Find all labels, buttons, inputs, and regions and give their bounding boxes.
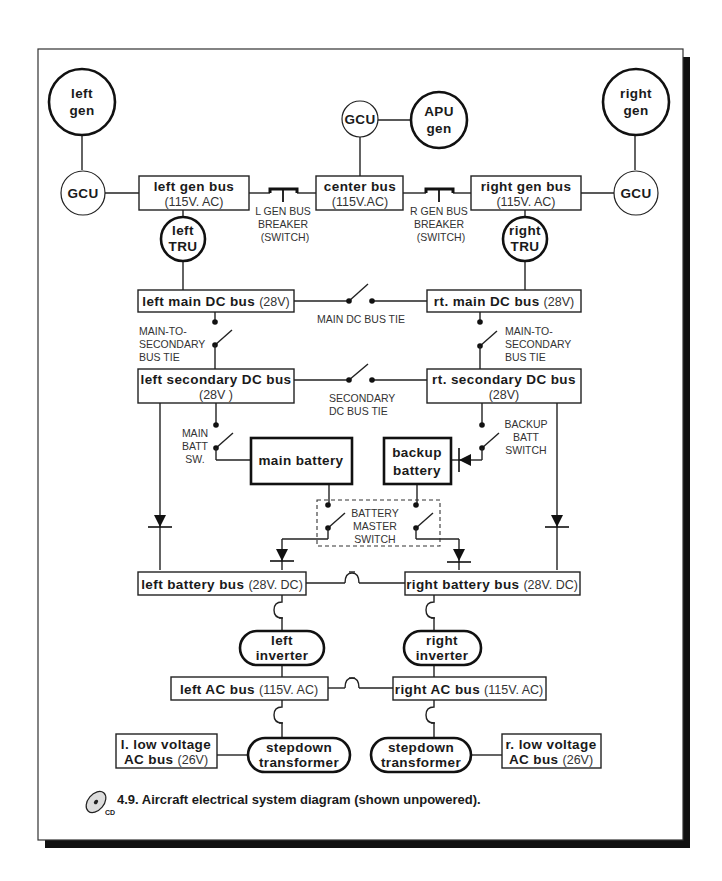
gcu-right-label: GCU: [620, 186, 651, 201]
svg-text:L GEN BUS: L GEN BUS: [255, 205, 311, 217]
electrical-system-diagram: left gen right gen APU gen GCU GCU GCU l…: [0, 0, 722, 881]
rt-secondary-dc-bus-name: rt. secondary DC bus: [432, 372, 576, 387]
svg-text:BUS TIE: BUS TIE: [505, 351, 546, 363]
right-gen-label-1: right: [620, 86, 652, 101]
right-stepdown-transformer[interactable]: stepdown transformer: [371, 738, 471, 772]
apu-gen-label-2: gen: [426, 121, 451, 136]
right-battery-bus-text: right battery bus(28V. DC): [406, 577, 578, 592]
svg-text:DC BUS TIE: DC BUS TIE: [329, 405, 388, 417]
right-gen-bus[interactable]: right gen bus (115V. AC): [471, 176, 581, 210]
gcu-left[interactable]: GCU: [61, 171, 105, 215]
left-gen-label-1: left: [71, 86, 93, 101]
r-gen-bus-breaker-label: R GEN BUS BREAKER (SWITCH): [410, 205, 468, 243]
right-inverter-label-2: inverter: [416, 648, 469, 663]
left-tru-label-1: left: [172, 223, 194, 238]
right-ac-bus[interactable]: right AC bus(115V. AC): [393, 677, 546, 700]
left-generator[interactable]: left gen: [49, 69, 115, 135]
svg-text:MAIN-TO-: MAIN-TO-: [505, 325, 553, 337]
svg-text:BUS TIE: BUS TIE: [139, 351, 180, 363]
svg-text:SECONDARY: SECONDARY: [505, 338, 571, 350]
l-low-voltage-name-2: AC bus(26V): [124, 752, 208, 767]
svg-text:SWITCH: SWITCH: [505, 444, 546, 456]
r-low-voltage-name-1: r. low voltage: [505, 737, 596, 752]
left-inverter[interactable]: left inverter: [240, 631, 324, 665]
left-tru-label-2: TRU: [169, 239, 198, 254]
svg-text:R GEN BUS: R GEN BUS: [410, 205, 468, 217]
right-gen-bus-name: right gen bus: [481, 179, 572, 194]
left-stepdown-transformer[interactable]: stepdown transformer: [248, 738, 350, 772]
right-tru[interactable]: right TRU: [503, 217, 547, 261]
main-battery[interactable]: main battery: [251, 438, 352, 484]
svg-text:BACKUP: BACKUP: [504, 418, 547, 430]
svg-text:MAIN-TO-: MAIN-TO-: [139, 325, 187, 337]
svg-text:SW.: SW.: [185, 453, 204, 465]
rt-secondary-dc-bus[interactable]: rt. secondary DC bus (28V): [427, 369, 581, 403]
svg-text:(SWITCH): (SWITCH): [261, 231, 309, 243]
main-batt-sw-label: MAIN BATT SW.: [182, 427, 209, 465]
right-inverter-label-1: right: [426, 633, 458, 648]
left-gen-bus-name: left gen bus: [154, 179, 235, 194]
apu-generator[interactable]: APU gen: [411, 92, 467, 148]
l-low-voltage-ac-bus[interactable]: l. low voltage AC bus(26V): [116, 734, 217, 768]
left-tru[interactable]: left TRU: [161, 217, 205, 261]
left-secondary-dc-bus[interactable]: left secondary DC bus (28V ): [138, 369, 294, 403]
gcu-center-label: GCU: [344, 112, 375, 127]
left-inverter-label-2: inverter: [256, 648, 309, 663]
svg-text:SWITCH: SWITCH: [354, 533, 395, 545]
left-stepdown-label-1: stepdown: [266, 740, 332, 755]
battery-master-switch-label: BATTERY MASTER SWITCH: [351, 507, 398, 545]
main-battery-label: main battery: [258, 453, 343, 468]
svg-text:SECONDARY: SECONDARY: [329, 392, 395, 404]
left-ac-bus-text: left AC bus(115V. AC): [180, 682, 318, 697]
left-secondary-dc-bus-voltage: (28V ): [199, 388, 233, 402]
left-inverter-label-1: left: [271, 633, 293, 648]
apu-gen-label-1: APU: [424, 104, 454, 119]
right-generator[interactable]: right gen: [603, 69, 669, 135]
secondary-dc-bus-tie-label: SECONDARY DC BUS TIE: [329, 392, 395, 417]
right-tru-label-2: TRU: [511, 239, 540, 254]
right-battery-bus[interactable]: right battery bus(28V. DC): [405, 572, 580, 595]
backup-battery[interactable]: backup battery: [384, 438, 451, 484]
svg-text:MAIN: MAIN: [182, 427, 208, 439]
right-ac-bus-text: right AC bus(115V. AC): [395, 682, 543, 697]
l-low-voltage-name-1: l. low voltage: [121, 737, 211, 752]
right-inverter[interactable]: right inverter: [404, 631, 481, 665]
cd-icon-label: CD: [105, 809, 115, 816]
left-battery-bus[interactable]: left battery bus(28V. DC): [138, 572, 306, 595]
gcu-left-label: GCU: [67, 186, 98, 201]
gcu-center[interactable]: GCU: [342, 101, 378, 137]
svg-text:BATTERY: BATTERY: [351, 507, 398, 519]
backup-battery-label-1: backup: [392, 445, 442, 460]
r-low-voltage-ac-bus[interactable]: r. low voltage AC bus(26V): [502, 734, 601, 768]
right-gen-label-2: gen: [623, 103, 648, 118]
center-bus[interactable]: center bus (115V.AC): [316, 176, 403, 210]
right-stepdown-label-2: transformer: [381, 755, 462, 770]
rt-main-dc-bus[interactable]: rt. main DC bus(28V): [427, 290, 581, 312]
backup-battery-label-2: battery: [393, 463, 441, 478]
svg-text:(SWITCH): (SWITCH): [417, 231, 465, 243]
left-main-dc-bus[interactable]: left main DC bus(28V): [138, 290, 294, 312]
center-bus-voltage: (115V.AC): [332, 195, 388, 209]
right-stepdown-label-1: stepdown: [388, 740, 454, 755]
figure-caption: 4.9. Aircraft electrical system diagram …: [117, 792, 481, 807]
left-gen-label-2: gen: [69, 103, 94, 118]
left-main-dc-bus-text: left main DC bus(28V): [142, 294, 290, 309]
svg-text:SECONDARY: SECONDARY: [139, 338, 205, 350]
left-secondary-dc-bus-name: left secondary DC bus: [141, 372, 292, 387]
svg-text:BATT: BATT: [513, 431, 540, 443]
main-dc-bus-tie-label: MAIN DC BUS TIE: [317, 313, 405, 325]
svg-text:BREAKER: BREAKER: [258, 218, 309, 230]
r-low-voltage-name-2: AC bus(26V): [509, 752, 593, 767]
rt-secondary-dc-bus-voltage: (28V): [489, 388, 520, 402]
svg-text:BREAKER: BREAKER: [414, 218, 465, 230]
svg-text:BATT: BATT: [182, 440, 209, 452]
svg-text:MASTER: MASTER: [353, 520, 397, 532]
center-bus-name: center bus: [324, 179, 396, 194]
gcu-right[interactable]: GCU: [614, 171, 658, 215]
left-battery-bus-text: left battery bus(28V. DC): [141, 577, 303, 592]
left-ac-bus[interactable]: left AC bus(115V. AC): [171, 677, 328, 700]
left-stepdown-label-2: transformer: [259, 755, 340, 770]
rt-main-dc-bus-text: rt. main DC bus(28V): [434, 294, 574, 309]
right-gen-bus-voltage: (115V. AC): [496, 195, 555, 209]
left-gen-bus[interactable]: left gen bus (115V. AC): [139, 176, 249, 210]
